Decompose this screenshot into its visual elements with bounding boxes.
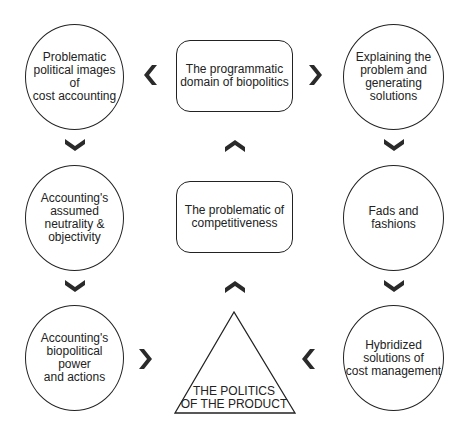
chevron-down-icon: [382, 278, 406, 294]
chevron-right-icon: [307, 63, 323, 87]
chevron-right-icon: [137, 347, 153, 371]
chevron-left-icon: [143, 63, 159, 87]
chevron-up-icon: [223, 279, 247, 295]
chevron-up-icon: [223, 138, 247, 154]
node-hybridized-solutions: Hybridized solutions of cost management: [343, 305, 444, 411]
node-politics-of-product: THE POLITICS OF THE PRODUCT: [180, 385, 288, 411]
chevron-down-icon: [382, 137, 406, 153]
biopolitics-diagram: Problematic political images of cost acc…: [0, 0, 464, 435]
chevron-down-icon: [63, 137, 87, 153]
chevron-left-icon: [301, 347, 317, 371]
chevron-down-icon: [63, 278, 87, 294]
node-label: Hybridized solutions of cost management: [346, 339, 441, 378]
